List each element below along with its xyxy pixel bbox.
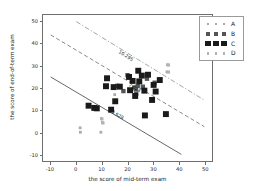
scatter-point-C [153,89,159,95]
x-tick-mark [76,162,77,165]
legend-item-C[interactable]: C [203,39,240,49]
scatter-point-C [163,111,169,117]
x-tick-label: 10 [98,166,105,172]
y-tick-label: 0 [22,130,38,136]
legend-label: D [229,48,236,58]
scatter-point-C [139,73,145,79]
x-tick-mark [128,162,129,165]
x-tick-label: -10 [46,166,54,172]
scatter-point-D [167,70,170,73]
y-tick-mark [40,88,43,89]
legend-marker-icon [203,19,229,29]
y-tick-label: 40 [22,40,38,46]
x-tick-mark [153,162,154,165]
scatter-point-C [157,77,163,83]
y-tick-label: -10 [22,152,38,158]
scatter-point-C [151,82,157,88]
scatter-point-C [145,72,151,78]
scatter-point-A [79,131,82,134]
x-axis-label: the score of mid-term exam [42,176,213,182]
legend-item-D[interactable]: D [203,48,240,58]
scatter-point-D [100,117,103,120]
y-tick-mark [40,110,43,111]
scatter-point-A [99,131,102,134]
scatter-point-C [86,103,92,109]
scatter-point-C [149,97,155,103]
y-tick-mark [40,133,43,134]
legend-item-B[interactable]: B [203,29,240,39]
scatter-point-D [101,121,104,124]
figure: 3.6287.02810.295 -1001020304050 -1001020… [0,0,254,191]
legend-marker-icon [203,48,229,58]
x-tick-label: 30 [150,166,157,172]
scatter-point-C [104,75,110,81]
y-tick-mark [40,155,43,156]
scatter-point-C [141,88,147,94]
scatter-point-A [113,93,116,96]
legend-label: A [229,19,235,29]
legend-label: B [229,29,235,39]
scatter-point-C [111,84,117,90]
scatter-point-C [126,74,132,80]
legend-marker-icon [203,29,229,39]
plot-area: 3.6287.02810.295 [42,14,213,162]
scatter-point-C [103,83,109,89]
x-tick-label: 50 [202,166,209,172]
legend: ABCD [199,16,244,61]
legend-label: C [229,39,235,49]
y-axis-label: the score of end-of-term exam [9,3,15,151]
scatter-point-C [112,98,118,104]
legend-item-A[interactable]: A [203,19,240,29]
y-tick-label: 10 [22,107,38,113]
scatter-point-D [167,63,170,66]
scatter-point-C [132,93,138,99]
x-tick-label: 0 [74,166,77,172]
x-tick-mark [50,162,51,165]
x-tick-mark [179,162,180,165]
y-tick-label: 50 [22,18,38,24]
y-tick-label: 30 [22,63,38,69]
y-tick-mark [40,21,43,22]
y-tick-mark [40,66,43,67]
scatter-point-C [94,105,100,111]
x-tick-label: 40 [176,166,183,172]
scatter-point-C [117,84,123,90]
scatter-point-C [142,112,148,118]
legend-marker-icon [203,39,229,49]
y-tick-mark [40,43,43,44]
scatter-point-A [79,126,82,129]
x-tick-mark [205,162,206,165]
scatter-points-layer [43,15,212,161]
x-tick-mark [102,162,103,165]
scatter-point-C [136,78,142,84]
x-tick-label: 20 [124,166,131,172]
y-tick-label: 20 [22,85,38,91]
